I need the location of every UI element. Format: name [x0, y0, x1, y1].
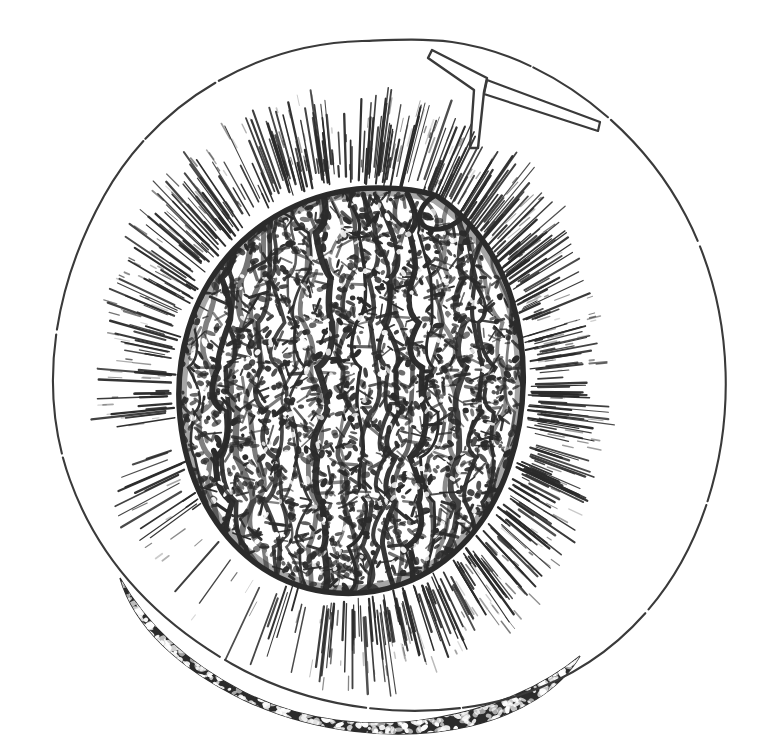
illustration-root: Peach with exposed stone: [0, 0, 775, 746]
peach-engraving-figure: Peach with exposed stone: [0, 0, 775, 746]
